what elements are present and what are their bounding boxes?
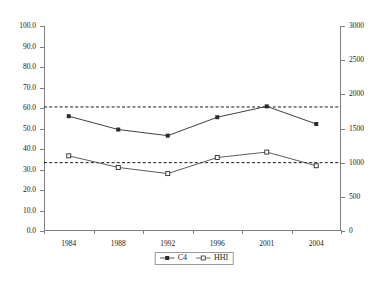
x-axis-tick-label: 2004	[291, 240, 341, 248]
chart-container: 0.010.020.030.040.050.060.070.080.090.01…	[0, 0, 388, 285]
y-axis-left-tick-label: 70.0	[2, 84, 36, 92]
data-point-c4[interactable]	[67, 114, 71, 118]
x-axis-tick-label: 1996	[192, 240, 242, 248]
y-axis-right-tick-label: 1500	[349, 125, 383, 133]
x-axis-tick-label: 1988	[93, 240, 143, 248]
data-point-c4[interactable]	[265, 104, 269, 108]
data-point-hhi[interactable]	[265, 150, 269, 154]
data-point-hhi[interactable]	[67, 154, 71, 158]
data-point-hhi[interactable]	[166, 172, 170, 176]
y-axis-left-tick-label: 50.0	[2, 125, 36, 133]
data-point-c4[interactable]	[116, 128, 120, 132]
x-axis-tick-label: 2001	[242, 240, 292, 248]
legend-marker-open-square-icon	[196, 254, 211, 262]
chart-legend: C4 HHI	[155, 252, 234, 265]
data-point-hhi[interactable]	[314, 164, 318, 168]
legend-item-c4[interactable]: C4	[160, 254, 187, 262]
y-axis-left-tick-label: 20.0	[2, 186, 36, 194]
y-axis-right-tick	[341, 26, 345, 27]
legend-label-c4: C4	[178, 254, 187, 262]
y-axis-right-tick-label: 0	[349, 227, 383, 235]
y-axis-right-tick-label: 2500	[349, 56, 383, 64]
y-axis-right-tick	[341, 163, 345, 164]
y-axis-right-tick-label: 3000	[349, 22, 383, 30]
y-axis-left-tick-label: 10.0	[2, 207, 36, 215]
x-axis-tick-label: 1984	[44, 240, 94, 248]
y-axis-left-tick-label: 30.0	[2, 166, 36, 174]
y-axis-right-tick-label: 2000	[349, 90, 383, 98]
y-axis-right-tick	[341, 60, 345, 61]
x-axis-tick	[341, 230, 342, 234]
data-point-c4[interactable]	[314, 122, 318, 126]
legend-label-hhi: HHI	[214, 254, 228, 262]
data-point-c4[interactable]	[166, 134, 170, 138]
y-axis-right-tick	[341, 94, 345, 95]
legend-item-hhi[interactable]: HHI	[196, 254, 228, 262]
y-axis-right-tick	[341, 197, 345, 198]
plot-area	[44, 26, 341, 231]
y-axis-right-tick	[341, 129, 345, 130]
series-plot-layer	[44, 26, 341, 231]
series-c4	[67, 104, 319, 137]
y-axis-left-tick-label: 60.0	[2, 104, 36, 112]
legend-marker-filled-square-icon	[160, 254, 175, 262]
data-point-hhi[interactable]	[116, 165, 120, 169]
y-axis-left-tick-label: 90.0	[2, 43, 36, 51]
y-axis-right-tick-label: 1000	[349, 159, 383, 167]
y-axis-left-tick-label: 0.0	[2, 227, 36, 235]
y-axis-left-tick-label: 80.0	[2, 63, 36, 71]
data-point-hhi[interactable]	[215, 156, 219, 160]
y-axis-left-tick-label: 100.0	[2, 22, 36, 30]
y-axis-right-tick-label: 500	[349, 193, 383, 201]
y-axis-left-tick-label: 40.0	[2, 145, 36, 153]
data-point-c4[interactable]	[215, 115, 219, 119]
x-axis-tick-label: 1992	[143, 240, 193, 248]
